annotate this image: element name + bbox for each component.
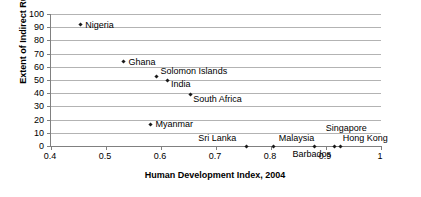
y-tick-label: 100 [18, 9, 44, 19]
gridline [51, 106, 381, 107]
gridline [51, 80, 381, 81]
point-label-malaysia: Malaysia [279, 133, 315, 143]
gridline [51, 40, 381, 41]
x-tick-label: 1 [360, 151, 400, 162]
gridline [51, 14, 381, 15]
x-tick-label: 0.6 [140, 151, 180, 162]
point-label-ghana: Ghana [129, 57, 156, 67]
y-tick-mark [47, 133, 51, 134]
y-tick-label: 10 [18, 128, 44, 138]
x-tick-mark [381, 146, 382, 150]
gridline [51, 54, 381, 55]
point-label-hong-kong: Hong Kong [343, 133, 388, 143]
x-tick-mark [216, 146, 217, 150]
x-tick-label: 0.4 [30, 151, 70, 162]
y-tick-mark [47, 27, 51, 28]
y-tick-label: 30 [18, 101, 44, 111]
x-axis-tick-labels: 0.40.50.60.70.80.91 [50, 151, 380, 163]
x-tick-mark [106, 146, 107, 150]
y-axis-tick-labels: 1009080706050403020100 [18, 8, 44, 153]
y-tick-mark [47, 54, 51, 55]
x-tick-mark [161, 146, 162, 150]
x-tick-label: 0.7 [195, 151, 235, 162]
point-label-myanmar: Myanmar [156, 119, 194, 129]
y-tick-mark [47, 106, 51, 107]
y-tick-mark [47, 14, 51, 15]
y-tick-mark [47, 40, 51, 41]
y-tick-label: 0 [18, 141, 44, 151]
x-tick-label: 0.9 [305, 151, 345, 162]
x-axis-title: Human Development Index, 2004 [50, 170, 380, 180]
y-tick-mark [47, 120, 51, 121]
point-label-singapore: Singapore [326, 123, 367, 133]
y-tick-label: 20 [18, 115, 44, 125]
y-tick-mark [47, 80, 51, 81]
point-label-south-africa: South Africa [193, 94, 242, 104]
x-tick-mark [51, 146, 52, 150]
gridline [51, 120, 381, 121]
y-tick-label: 40 [18, 88, 44, 98]
scatter-chart-figure: Extent of Indirect Rule 1009080706050403… [0, 0, 421, 197]
y-tick-label: 50 [18, 75, 44, 85]
y-tick-label: 90 [18, 22, 44, 32]
point-label-solomon-islands: Solomon Islands [161, 66, 228, 76]
point-label-india: India [171, 79, 191, 89]
point-label-sri-lanka: Sri Lanka [198, 133, 236, 143]
y-tick-label: 70 [18, 49, 44, 59]
y-tick-mark [47, 93, 51, 94]
x-tick-label: 0.5 [85, 151, 125, 162]
point-label-nigeria: Nigeria [85, 20, 114, 30]
plot-area: NigeriaGhanaSolomon IslandsIndiaSouth Af… [50, 14, 381, 147]
x-tick-label: 0.8 [250, 151, 290, 162]
y-tick-label: 60 [18, 62, 44, 72]
y-tick-mark [47, 67, 51, 68]
y-tick-label: 80 [18, 35, 44, 45]
